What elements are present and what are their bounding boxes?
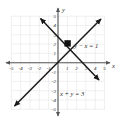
- x-tick--2: -2: [37, 66, 42, 71]
- x-axis-label: x: [111, 62, 115, 69]
- x-tick--3: -3: [28, 66, 33, 71]
- coordinate-plane-figure: -5 -4 -3 -2 -1 1 2 3 4 5 5 4 3 2 1 -1 -2…: [0, 0, 119, 122]
- x-tick-4: 4: [94, 66, 97, 71]
- y-tick--1: -1: [52, 70, 56, 75]
- intersection-point-marker: [64, 40, 70, 46]
- x-tick-1: 1: [66, 66, 69, 71]
- y-tick--3: -3: [52, 89, 57, 94]
- y-tick--2: -2: [52, 79, 57, 84]
- y-tick--5: -5: [52, 107, 57, 112]
- x-tick--1: -1: [47, 66, 51, 71]
- y-tick-1: 1: [54, 51, 57, 56]
- x-tick-2: 2: [75, 66, 78, 71]
- y-tick-2: 2: [54, 42, 57, 47]
- y-tick--4: -4: [52, 98, 57, 103]
- x-tick--4: -4: [19, 66, 24, 71]
- x-tick--5: -5: [9, 66, 14, 71]
- graph-canvas: -5 -4 -3 -2 -1 1 2 3 4 5 5 4 3 2 1 -1 -2…: [0, 0, 119, 122]
- equation-label-descending: x + y = 3: [59, 90, 85, 97]
- y-axis-label: y: [61, 6, 65, 13]
- x-tick-5: 5: [103, 66, 106, 71]
- equation-label-ascending: y − x = 1: [73, 42, 98, 49]
